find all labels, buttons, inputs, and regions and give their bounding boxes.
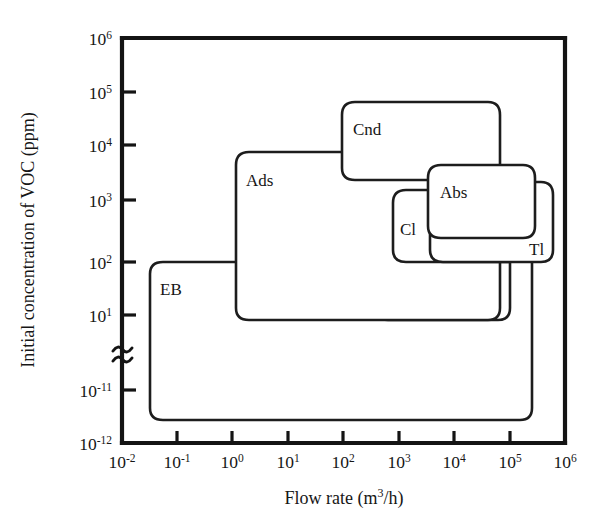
x-tick-label: 106 xyxy=(553,452,577,472)
y-tick-label: 102 xyxy=(89,253,113,273)
y-tick-label: 10-11 xyxy=(80,381,113,401)
x-tick-label: 105 xyxy=(498,452,522,472)
region-abs-label: Abs xyxy=(440,183,467,202)
chart-figure: EB Ads Cnd Abs Cl Tl 106 105 104 103 102… xyxy=(0,0,610,526)
y-tick-label: 10-12 xyxy=(79,434,112,454)
y-tick-labels: 106 105 104 103 102 101 10-11 10-12 xyxy=(79,29,112,454)
y-tick-label: 104 xyxy=(89,136,113,156)
y-tick-label: 105 xyxy=(89,83,113,103)
x-tick-label: 102 xyxy=(331,452,355,472)
y-axis-title: Initial concentration of VOC (ppm) xyxy=(18,112,39,368)
x-tick-labels: 10-2 10-1 100 101 102 103 104 105 xyxy=(108,452,576,472)
y-tick-label: 103 xyxy=(89,191,113,211)
x-tick-label: 101 xyxy=(276,452,300,472)
y-tick-label: 106 xyxy=(89,29,113,49)
region-cnd-label: Cnd xyxy=(353,120,382,139)
region-tl-label: Tl xyxy=(529,240,544,259)
x-axis-title: Flow rate (m3/h) xyxy=(285,486,404,509)
region-cl-label: Cl xyxy=(400,220,416,239)
y-tick-label: 101 xyxy=(89,306,113,326)
x-tick-label: 100 xyxy=(220,452,244,472)
x-tick-label: 104 xyxy=(442,452,466,472)
region-map-plot: EB Ads Cnd Abs Cl Tl 106 105 104 103 102… xyxy=(0,0,610,526)
x-tick-label: 10-2 xyxy=(108,452,135,472)
x-tick-label: 103 xyxy=(387,452,411,472)
region-eb-label: EB xyxy=(160,280,182,299)
x-tick-label: 10-1 xyxy=(163,452,190,472)
region-ads-label: Ads xyxy=(246,171,273,190)
